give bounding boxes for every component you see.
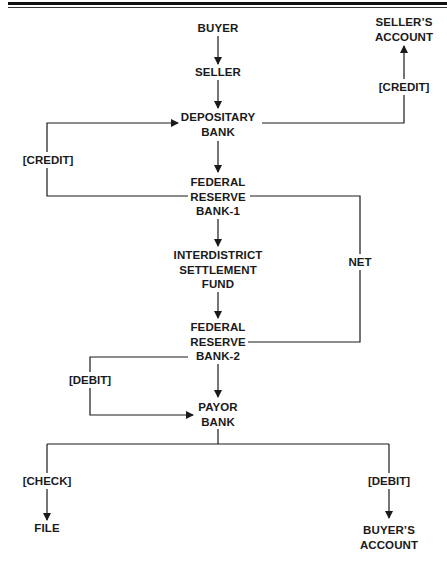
node-label: BANK bbox=[181, 125, 255, 140]
node-label: RESERVE bbox=[190, 335, 245, 350]
node-label: INTERDISTRICT bbox=[174, 248, 263, 263]
node-buyers-account: BUYER’S ACCOUNT bbox=[358, 523, 420, 552]
node-buyer: BUYER bbox=[196, 21, 241, 36]
node-label: BUYER’S bbox=[360, 523, 418, 538]
node-label: PAYOR bbox=[198, 400, 238, 415]
node-interdistrict-settlement-fund: INTERDISTRICT SETTLEMENT FUND bbox=[172, 248, 265, 292]
node-label: SELLER’S bbox=[375, 15, 433, 30]
node-federal-reserve-bank-1: FEDERAL RESERVE BANK-1 bbox=[188, 175, 247, 219]
label-credit-sellers-account: [CREDIT] bbox=[378, 79, 430, 95]
node-label: ACCOUNT bbox=[375, 30, 433, 45]
node-label: BANK bbox=[198, 415, 238, 430]
node-label: ACCOUNT bbox=[360, 538, 418, 553]
node-file: FILE bbox=[32, 521, 61, 536]
node-label: FILE bbox=[34, 521, 59, 536]
node-label: SELLER bbox=[195, 65, 241, 80]
label-debit-buyers-account: [DEBIT] bbox=[367, 473, 411, 489]
label-check: [CHECK] bbox=[22, 473, 73, 489]
node-depositary-bank: DEPOSITARY BANK bbox=[179, 110, 257, 139]
node-label: RESERVE bbox=[190, 190, 245, 205]
label-credit-depositary: [CREDIT] bbox=[22, 152, 74, 168]
label-net: NET bbox=[348, 254, 373, 270]
node-federal-reserve-bank-2: FEDERAL RESERVE BANK-2 bbox=[188, 320, 247, 364]
node-seller: SELLER bbox=[193, 65, 243, 80]
node-label: BANK-2 bbox=[190, 349, 245, 364]
node-sellers-account: SELLER’S ACCOUNT bbox=[373, 15, 435, 44]
node-payor-bank: PAYOR BANK bbox=[196, 400, 240, 429]
node-label: FEDERAL bbox=[190, 320, 245, 335]
node-label: BUYER bbox=[198, 21, 239, 36]
node-label: DEPOSITARY bbox=[181, 110, 255, 125]
node-label: FUND bbox=[174, 277, 263, 292]
node-label: SETTLEMENT bbox=[174, 263, 263, 278]
node-label: FEDERAL bbox=[190, 175, 245, 190]
edge-frb1-net-frb2 bbox=[248, 196, 360, 342]
node-label: BANK-1 bbox=[190, 204, 245, 219]
label-debit-payor: [DEBIT] bbox=[68, 372, 112, 388]
